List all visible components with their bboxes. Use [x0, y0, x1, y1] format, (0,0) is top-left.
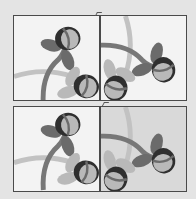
flower-vine-motif: [101, 16, 186, 100]
tile-top-left: [13, 15, 100, 101]
tile-top-right: [100, 15, 187, 101]
tile-bottom-left: [13, 106, 100, 192]
flower-vine-motif: [101, 107, 186, 191]
flower-vine-motif: [14, 107, 99, 191]
tile-bottom-right: [100, 106, 187, 192]
flower-vine-motif: [14, 16, 99, 100]
